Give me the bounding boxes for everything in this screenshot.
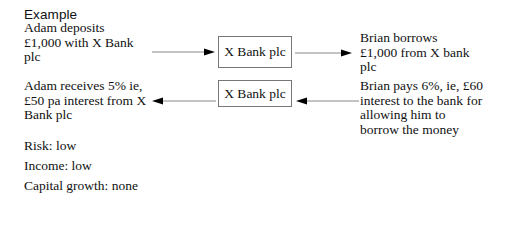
income-stat: Income: low xyxy=(24,158,92,174)
arrow-left-icon xyxy=(152,98,216,105)
arrow-left-icon xyxy=(296,98,359,105)
arrow-right-icon xyxy=(152,49,215,56)
arrow-right-icon xyxy=(295,50,352,57)
risk-stat: Risk: low xyxy=(24,138,76,154)
capital-growth-stat: Capital growth: none xyxy=(24,178,138,194)
